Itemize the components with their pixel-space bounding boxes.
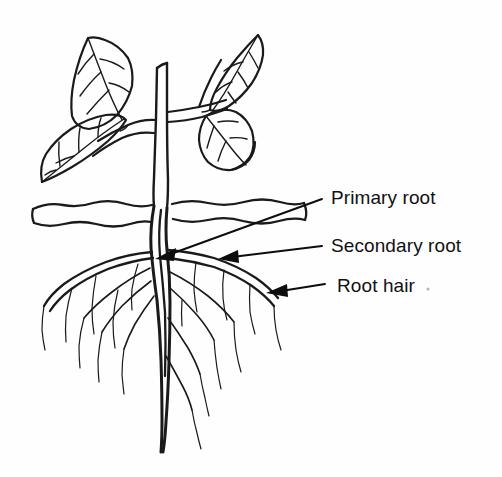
label-primary-root: Primary root — [331, 188, 436, 207]
label-layer: Primary root Secondary root Root hair — [0, 0, 502, 477]
label-root-hair: Root hair — [337, 276, 415, 295]
root-system-diagram: Primary root Secondary root Root hair — [0, 0, 502, 477]
label-secondary-root: Secondary root — [331, 236, 461, 255]
